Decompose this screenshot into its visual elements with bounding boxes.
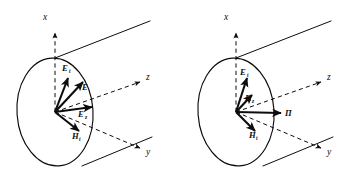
svg-text:t: t [247,72,249,78]
svg-text:E: E [77,109,84,119]
svg-text:z: z [84,114,88,120]
H-t-vector-right [236,112,255,131]
right-panel: x z y E t П z П H t [194,12,333,169]
svg-text:t: t [79,136,81,142]
svg-text:t: t [69,68,71,74]
E-label-left: E [81,82,88,92]
cylinder-bottom-line-right [263,137,333,166]
svg-text:z: z [251,98,255,104]
svg-text:E: E [81,82,88,92]
y-axis-label-left: y [145,147,151,157]
svg-text:H: H [248,130,256,140]
H-t-vector-left [55,112,79,131]
svg-text:П: П [244,93,252,103]
E-t-vector-left [55,78,68,112]
svg-text:П: П [284,108,292,118]
Pi-label-right: П [284,108,292,118]
Pi-z-label-right: П z [244,93,255,104]
E-z-label-left: E z [77,109,88,120]
svg-text:t: t [256,135,258,141]
E-vector-left [55,82,83,112]
y-axis-left [55,112,140,148]
y-axis-label-right: y [326,147,332,157]
left-panel: x z y E t E E z H t [13,12,152,169]
E-t-label-right: E t [239,67,249,78]
Pi-vector-right [236,112,281,113]
svg-text:E: E [61,63,68,73]
x-axis-label-left: x [42,12,48,22]
z-axis-label-left: z [145,72,150,82]
cylinder-top-line-right [236,21,331,58]
svg-text:H: H [71,131,79,141]
E-t-label-left: E t [61,63,71,74]
H-t-label-left: H t [71,131,81,142]
figure-root: x z y E t E E z H t [0,0,362,186]
cylinder-bottom-line-left [82,137,152,166]
cylinder-top-line-left [55,21,150,58]
svg-text:E: E [239,67,246,77]
x-axis-label-right: x [223,12,229,22]
figure-svg: x z y E t E E z H t [0,0,362,186]
H-t-label-right: H t [248,130,258,141]
z-axis-label-right: z [326,72,331,82]
E-z-vector-left [55,107,92,112]
